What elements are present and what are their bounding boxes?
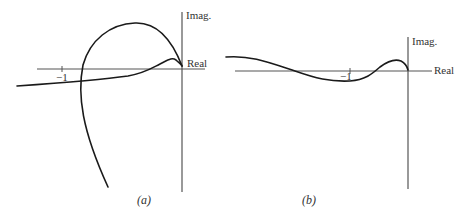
imag-label-a: Imag. bbox=[186, 9, 212, 21]
caption-a: (a) bbox=[137, 193, 151, 207]
real-label-a: Real bbox=[187, 57, 207, 69]
panel-b: −1 Imag. Real (b) bbox=[226, 35, 454, 207]
nyquist-curve-b bbox=[226, 57, 408, 81]
nyquist-curve-a-loop bbox=[81, 23, 182, 187]
tick-label-a: −1 bbox=[56, 71, 68, 83]
real-label-b: Real bbox=[434, 64, 454, 76]
nyquist-figure: −1 Imag. Real (a) −1 Imag. Real (b) bbox=[0, 0, 470, 219]
imag-label-b: Imag. bbox=[412, 35, 438, 47]
caption-b: (b) bbox=[302, 193, 316, 207]
nyquist-curve-a-tail bbox=[17, 59, 182, 86]
tick-label-b: −1 bbox=[340, 70, 352, 82]
panel-a: −1 Imag. Real (a) bbox=[17, 9, 212, 207]
